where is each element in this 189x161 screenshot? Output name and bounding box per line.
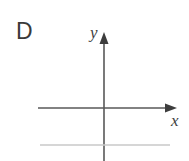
panel-letter: D	[16, 20, 33, 43]
figure-panel: D y x	[0, 0, 189, 161]
x-axis-label: x	[171, 112, 179, 129]
arrow-up-icon	[100, 32, 109, 44]
y-axis-label: y	[90, 24, 98, 41]
